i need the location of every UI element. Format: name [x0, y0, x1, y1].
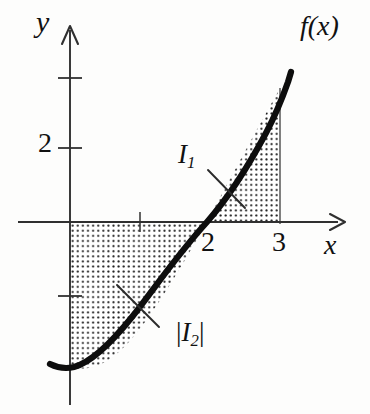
- abs-bar-right-icon: |: [199, 316, 205, 347]
- area-label-i1-base: I: [178, 139, 187, 169]
- x-axis-label: x: [324, 231, 336, 259]
- y-tick-label-2: 2: [38, 129, 52, 157]
- function-label: f(x): [300, 12, 339, 40]
- y-axis-label: y: [36, 7, 49, 37]
- area-label-i2: |I2|: [176, 318, 204, 350]
- x-tick-label-2: 2: [201, 228, 215, 256]
- area-label-i2-base: I: [182, 317, 191, 347]
- x-tick-label-3: 3: [272, 228, 286, 256]
- area-label-i2-subscript: 2: [191, 331, 199, 350]
- area-label-i1-subscript: 1: [187, 153, 195, 172]
- area-label-i1: I1: [178, 141, 195, 172]
- integral-area-figure: y f(x) 2 I1 2 3 x |I2|: [0, 0, 370, 414]
- figure-canvas: [0, 0, 370, 414]
